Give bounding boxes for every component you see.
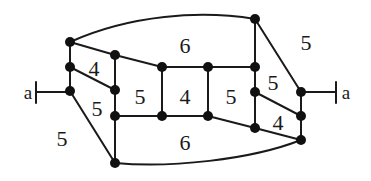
edge-bottom-arc xyxy=(115,140,301,164)
right-terminal-label: a xyxy=(342,82,351,103)
vertex xyxy=(203,62,213,72)
vertex xyxy=(250,123,260,133)
vertex xyxy=(65,37,75,47)
vertex xyxy=(296,87,306,97)
face-label-right-lower: 4 xyxy=(273,110,284,135)
vertex xyxy=(65,86,75,96)
face-label-bottom: 6 xyxy=(180,130,191,155)
vertex xyxy=(65,62,75,72)
edge xyxy=(115,55,162,67)
vertex xyxy=(250,62,260,72)
left-terminal-label: a xyxy=(24,82,33,103)
face-label-left-middle: 5 xyxy=(92,96,103,121)
face-label-outer-right: 5 xyxy=(301,30,312,55)
vertex xyxy=(110,111,120,121)
vertex xyxy=(110,85,120,95)
graph-svg: a a 6 4 5 5 4 5 5 4 6 5 5 xyxy=(0,0,371,181)
vertex xyxy=(110,50,120,60)
face-label-center: 4 xyxy=(180,84,191,109)
face-label-right-upper: 5 xyxy=(268,70,279,95)
edge-top-arc xyxy=(70,15,255,42)
graph-diagram: a a 6 4 5 5 4 5 5 4 6 5 5 xyxy=(0,0,371,181)
vertex xyxy=(157,111,167,121)
vertex xyxy=(203,111,213,121)
edge xyxy=(208,116,255,128)
vertex xyxy=(296,111,306,121)
face-label-left-upper: 4 xyxy=(89,56,100,81)
vertex xyxy=(157,62,167,72)
vertex xyxy=(110,158,120,168)
edge xyxy=(70,42,115,55)
face-label-center-right: 5 xyxy=(226,84,237,109)
vertex xyxy=(250,14,260,24)
vertex xyxy=(296,135,306,145)
face-label-center-left: 5 xyxy=(135,84,146,109)
vertex xyxy=(250,87,260,97)
face-label-outer-left: 5 xyxy=(57,126,68,151)
face-label-top: 6 xyxy=(180,33,191,58)
